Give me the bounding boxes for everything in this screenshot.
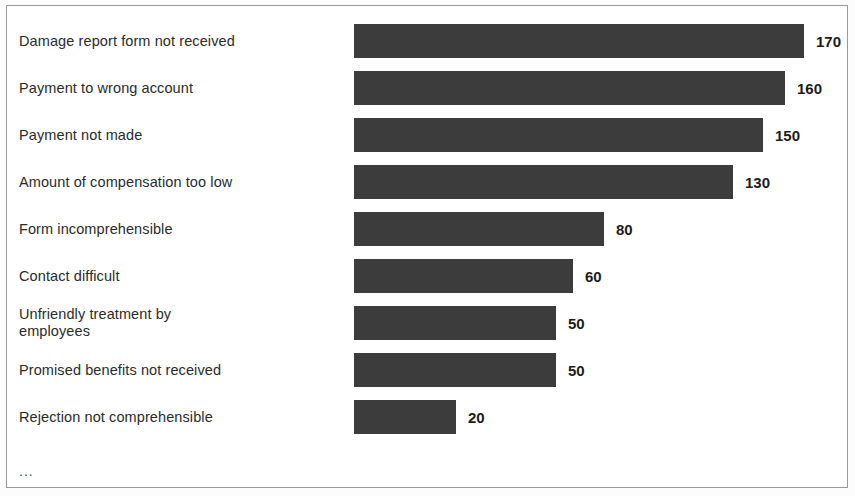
bar-track: 60 (354, 259, 847, 293)
bar-value-label: 150 (775, 127, 800, 144)
bar-row: Damage report form not received170 (7, 24, 847, 58)
bar-value-label: 50 (568, 315, 585, 332)
bar-rect (354, 165, 733, 199)
bar-rect (354, 353, 556, 387)
bar-value-label: 80 (616, 221, 633, 238)
bar-rect (354, 71, 785, 105)
bar-track: 20 (354, 400, 847, 434)
bar-rect (354, 259, 573, 293)
bar-row: Payment not made150 (7, 118, 847, 152)
bar-category-label: Damage report form not received (19, 33, 349, 50)
bar-rect (354, 306, 556, 340)
bar-row: Amount of compensation too low130 (7, 165, 847, 199)
bar-track: 150 (354, 118, 847, 152)
bar-row: Unfriendly treatment by employees50 (7, 306, 847, 340)
bar-category-label: Promised benefits not received (19, 362, 349, 379)
bar-value-label: 50 (568, 362, 585, 379)
bar-category-label: Contact difficult (19, 268, 349, 285)
bar-chart-figure: Damage report form not received170Paymen… (0, 0, 855, 496)
bar-category-label: Amount of compensation too low (19, 174, 349, 191)
bar-rect (354, 212, 604, 246)
chart-frame-border: Damage report form not received170Paymen… (6, 5, 848, 488)
bar-rect (354, 118, 763, 152)
bar-category-label: Rejection not comprehensible (19, 409, 349, 426)
bar-rect (354, 24, 804, 58)
bar-category-label: Payment not made (19, 127, 349, 144)
bar-value-label: 130 (745, 174, 770, 191)
bar-row: Promised benefits not received50 (7, 353, 847, 387)
bar-track: 80 (354, 212, 847, 246)
bar-category-label: Form incomprehensible (19, 221, 349, 238)
bar-track: 130 (354, 165, 847, 199)
bar-row: Form incomprehensible80 (7, 212, 847, 246)
trailing-ellipsis: ... (19, 463, 34, 479)
bar-row: Payment to wrong account160 (7, 71, 847, 105)
bar-track: 50 (354, 306, 847, 340)
bar-track: 170 (354, 24, 847, 58)
bar-value-label: 160 (797, 80, 822, 97)
bar-value-label: 60 (585, 268, 602, 285)
bar-rect (354, 400, 456, 434)
bar-value-label: 170 (816, 33, 841, 50)
bar-category-label: Unfriendly treatment by employees (19, 306, 349, 340)
bar-row: Contact difficult60 (7, 259, 847, 293)
bar-category-label: Payment to wrong account (19, 80, 349, 97)
bar-value-label: 20 (468, 409, 485, 426)
bar-track: 50 (354, 353, 847, 387)
plot-area: Damage report form not received170Paymen… (7, 6, 847, 487)
bar-track: 160 (354, 71, 847, 105)
bar-row: Rejection not comprehensible20 (7, 400, 847, 434)
